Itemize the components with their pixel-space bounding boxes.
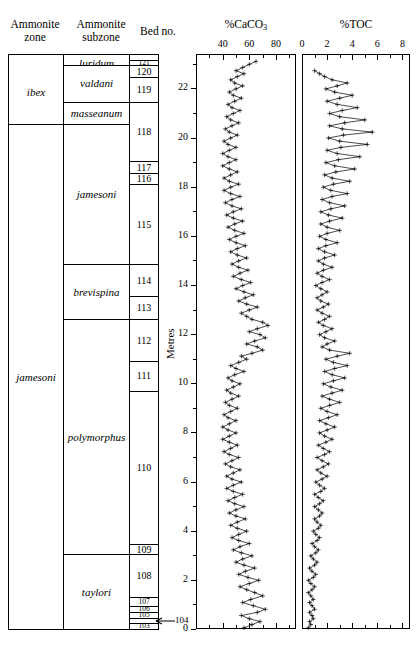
column-rule: [129, 606, 158, 607]
metres-major-tick: [191, 531, 196, 532]
metres-minor-tick: [193, 408, 196, 409]
metres-major-tick: [191, 187, 196, 188]
metres-minor-tick: [193, 310, 196, 311]
subzone-cell-brevispina: brevispina: [64, 264, 129, 319]
axis-tick-major: [402, 623, 403, 629]
axis-tick: [315, 54, 316, 58]
column-rule: [129, 102, 158, 103]
axis-tick-major: [276, 623, 277, 629]
chart-title-main: %TOC: [340, 18, 372, 30]
metres-tick-label: 4: [166, 524, 188, 535]
axis-tick: [390, 54, 391, 58]
metres-major-tick: [191, 432, 196, 433]
subzone-cell-valdani: valdani: [64, 65, 129, 102]
axis-tick: [365, 625, 366, 629]
axis-tick: [289, 54, 290, 58]
column-rule: [63, 102, 129, 103]
metres-major-tick: [191, 334, 196, 335]
metres-major-tick: [191, 285, 196, 286]
chart-title-caco3: %CaCO3: [196, 18, 296, 32]
column-rule: [63, 124, 129, 125]
column-rule: [129, 296, 158, 297]
metres-tick-label: 20: [166, 131, 188, 142]
metres-major-tick: [191, 236, 196, 237]
metres-tick-label: 18: [166, 180, 188, 191]
metres-minor-tick: [193, 457, 196, 458]
metres-minor-tick: [193, 162, 196, 163]
column-header-bed-no: Bed no.: [132, 25, 184, 38]
header-line-2: subzone: [68, 31, 134, 44]
x-axis-tick-label: 4: [340, 38, 364, 49]
axis-tick-major: [327, 623, 328, 629]
metres-minor-tick: [193, 555, 196, 556]
metres-major-tick: [191, 138, 196, 139]
column-rule: [129, 264, 158, 265]
stratigraphic-column: ibexjamesoniluridumvaldanimasseanumjames…: [8, 54, 158, 629]
axis-tick-major: [276, 54, 277, 60]
axis-tick: [236, 54, 237, 58]
column-rule: [129, 77, 158, 78]
column-rule: [129, 544, 158, 545]
bed-cell-119: 119: [130, 77, 158, 102]
column-rule: [129, 60, 158, 61]
chart-title-subscript: 3: [263, 23, 267, 32]
column-rule: [129, 629, 158, 630]
axis-tick-major: [249, 623, 250, 629]
bed-104-arrow-icon: [150, 615, 176, 627]
zone-cell-jamesoni: jamesoni: [9, 124, 63, 629]
axis-tick: [263, 54, 264, 58]
bed-cell-113: 113: [130, 296, 158, 319]
column-rule: [129, 361, 158, 362]
column-rule: [63, 65, 129, 66]
metres-major-tick: [191, 482, 196, 483]
header-line-1: Ammonite: [4, 18, 66, 31]
chart-title-toc: %TOC: [302, 18, 410, 30]
metres-minor-tick: [193, 604, 196, 605]
axis-tick: [209, 625, 210, 629]
chart-panel-toc: [302, 54, 410, 629]
axis-tick-major: [302, 54, 303, 60]
axis-tick: [365, 54, 366, 58]
bed-cell-115: 115: [130, 184, 158, 264]
bed-104-callout-label: 104: [175, 615, 189, 625]
column-rule: [63, 319, 129, 320]
metres-tick-label: 8: [166, 425, 188, 436]
metres-major-tick: [191, 383, 196, 384]
metres-minor-tick: [193, 64, 196, 65]
metres-tick-label: 22: [166, 81, 188, 92]
column-rule: [129, 319, 158, 320]
metres-tick-label: 2: [166, 573, 188, 584]
metres-minor-tick: [193, 359, 196, 360]
metres-minor-tick: [193, 113, 196, 114]
chart-title-main: %CaCO: [225, 18, 263, 30]
axis-tick-major: [402, 54, 403, 60]
metres-minor-tick: [193, 260, 196, 261]
column-rule: [129, 184, 158, 185]
subzone-cell-masseanum: masseanum: [64, 102, 129, 124]
x-axis-tick-label: 6: [365, 38, 389, 49]
axis-tick: [340, 625, 341, 629]
axis-tick-major: [377, 54, 378, 60]
bed-cell-110: 110: [130, 391, 158, 545]
axis-tick: [196, 54, 197, 58]
column-rule: [63, 264, 129, 265]
column-header-ammonite-subzone: Ammonite subzone: [68, 18, 134, 43]
x-axis-tick-label: 0: [290, 38, 314, 49]
axis-tick: [289, 625, 290, 629]
bed-cell-107: 107: [130, 597, 158, 606]
axis-tick-major: [327, 54, 328, 60]
column-header-ammonite-zone: Ammonite zone: [4, 18, 66, 43]
metres-major-tick: [191, 88, 196, 89]
header-line-2: zone: [4, 31, 66, 44]
subzone-cell-polymorphus: polymorphus: [64, 319, 129, 554]
metres-major-tick: [191, 580, 196, 581]
column-rule: [129, 173, 158, 174]
axis-tick: [196, 625, 197, 629]
chart-panel-caco3: [196, 54, 296, 629]
bed-cell-112: 112: [130, 319, 158, 361]
metres-major-tick: [191, 629, 196, 630]
column-rule: [129, 612, 158, 613]
bed-cell-120: 120: [130, 65, 158, 77]
bed-cell-109: 109: [130, 544, 158, 554]
metres-minor-tick: [193, 211, 196, 212]
